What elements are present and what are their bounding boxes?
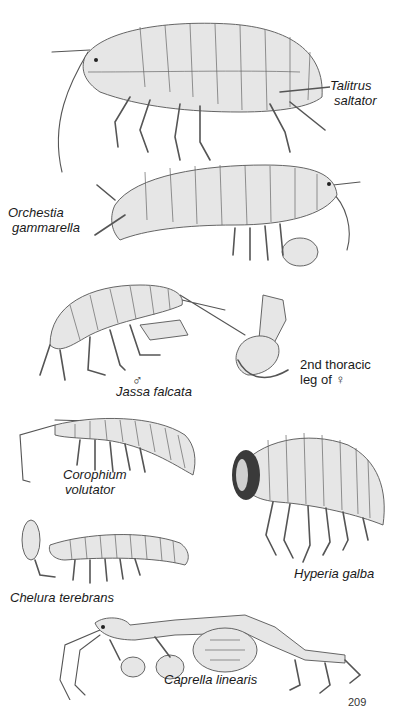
- page-number: 209: [348, 696, 366, 708]
- label-line-2: volutator: [63, 482, 127, 497]
- orchestia-gammarella-label: Orchestia gammarella: [8, 205, 80, 235]
- label-line-2: gammarella: [8, 220, 80, 235]
- field-guide-page: Talitrus saltator Orchestia gammarella ♂…: [0, 0, 397, 719]
- chelura-terebrans-label: Chelura terebrans: [10, 590, 114, 605]
- hyperia-galba-illustration: [218, 430, 388, 570]
- talitrus-saltator-label: Talitrus saltator: [330, 78, 377, 108]
- label-line-2: leg of ♀: [300, 372, 371, 387]
- thoracic-leg-label: 2nd thoracic leg of ♀: [300, 357, 371, 387]
- chelura-terebrans-illustration: [15, 515, 195, 590]
- caprella-linearis-label: Caprella linearis: [164, 672, 257, 687]
- label-line-1: Orchestia: [8, 205, 80, 220]
- thoracic-leg-illustration: [228, 290, 298, 385]
- jassa-falcata-label: Jassa falcata: [116, 384, 192, 399]
- label-line-1: 2nd thoracic: [300, 357, 371, 372]
- corophium-volutator-label: Corophium volutator: [63, 467, 127, 497]
- orchestia-gammarella-illustration: [85, 160, 365, 275]
- label-line-1: Talitrus: [330, 78, 377, 93]
- label-line-1: Corophium: [63, 467, 127, 482]
- talitrus-saltator-illustration: [40, 12, 330, 177]
- hyperia-galba-label: Hyperia galba: [294, 566, 374, 581]
- label-line-2: saltator: [330, 93, 377, 108]
